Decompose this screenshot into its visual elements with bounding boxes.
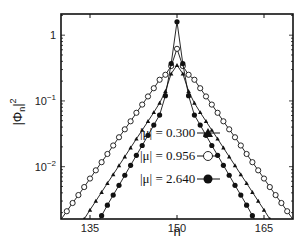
open-circle-marker [140,102,145,107]
open-circle-marker [267,184,272,189]
filled-circle-marker [174,19,179,24]
filled-circle-marker [163,93,168,98]
open-circle-marker [232,135,237,140]
filled-circle-marker [198,122,203,127]
y-tick-label: 10−1 [35,93,57,107]
open-circle-marker [285,209,290,214]
y-axis-label: |Φn|2 [8,98,27,125]
filled-circle-marker [99,213,104,218]
open-circle-marker [244,151,249,156]
triangle-marker [175,63,179,67]
open-circle-marker [93,168,98,173]
open-circle-marker [198,86,203,91]
open-circle-marker [87,176,92,181]
open-circle-marker [250,160,255,165]
filled-circle-marker [221,163,226,168]
open-circle-marker [238,143,243,148]
filled-circle-marker [250,213,255,218]
open-circle-marker [145,94,150,99]
x-axis-label: n [173,224,180,239]
open-circle-marker [256,168,261,173]
filled-circle-marker [111,192,116,197]
filled-circle-marker [238,192,243,197]
axes-frame [61,14,293,219]
filled-circle-marker [209,143,214,148]
filled-circle-marker [204,175,213,184]
chart: 135150165110−110−2 n |Φn|2 |μ| = 0.300|μ… [0,0,308,239]
x-tick-label: 165 [255,222,273,234]
open-circle-marker [227,127,232,132]
open-circle-marker [122,127,127,132]
filled-circle-marker [134,153,139,158]
legend-label: |μ| = 2.640 [140,171,195,186]
legend-label: |μ| = 0.956 [140,148,196,163]
series-1 [49,46,304,236]
legend-item: |μ| = 0.300 [140,125,220,140]
filled-circle-marker [122,173,127,178]
open-circle-marker [128,119,133,124]
x-tick-label: 135 [81,222,99,234]
legend: |μ| = 0.300|μ| = 0.956|μ| = 2.640 [140,125,220,186]
legend-item: |μ| = 2.640 [140,171,220,186]
open-circle-marker [157,77,162,82]
open-circle-marker [215,110,220,115]
filled-circle-marker [227,173,232,178]
open-circle-marker [116,135,121,140]
open-circle-marker [163,72,168,77]
filled-circle-marker [186,93,191,98]
filled-circle-marker [192,112,197,117]
open-circle-marker [151,86,156,91]
open-circle-marker [70,200,75,205]
filled-circle-marker [128,163,133,168]
open-circle-marker [111,143,116,148]
open-circle-marker [134,110,139,115]
open-circle-marker [99,160,104,165]
svg-text:|Φn|2: |Φn|2 [8,98,27,125]
filled-circle-marker [180,61,185,66]
open-circle-marker [76,192,81,197]
open-circle-marker [279,200,284,205]
axis-ticks [61,14,293,219]
open-circle-marker [273,192,278,197]
open-circle-marker [203,94,208,99]
legend-label: |μ| = 0.300 [140,125,195,140]
open-circle-marker [186,72,191,77]
open-circle-marker [221,119,226,124]
filled-circle-marker [215,153,220,158]
open-circle-marker [261,176,266,181]
open-circle-marker [209,102,214,107]
open-circle-marker [64,209,69,214]
triangle-marker [157,101,161,105]
open-circle-marker [82,184,87,189]
triangle-marker [198,110,202,114]
filled-circle-marker [232,183,237,188]
filled-circle-marker [157,112,162,117]
open-circle-marker [174,46,179,51]
y-tick-label: 10−2 [35,159,57,173]
y-tick-label: 1 [50,29,56,41]
filled-circle-marker [244,203,249,208]
series-line [49,49,304,236]
open-circle-marker [105,151,110,156]
open-circle-marker [204,152,213,161]
triangle-marker [192,101,196,105]
open-circle-marker [192,77,197,82]
filled-circle-marker [169,61,174,66]
legend-item: |μ| = 0.956 [140,148,220,163]
filled-circle-marker [116,183,121,188]
triangle-marker [152,110,156,114]
filled-circle-marker [105,203,110,208]
